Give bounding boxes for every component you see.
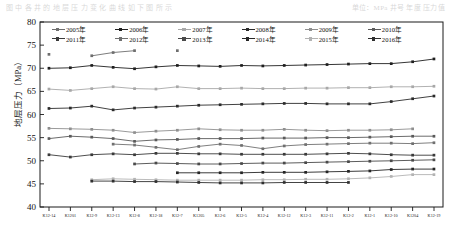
legend-item-2009年[interactable]: 2009年 <box>305 24 339 34</box>
data-point <box>411 85 414 88</box>
legend-label: 2016年 <box>382 34 402 44</box>
legend-item-2005年[interactable]: 2005年 <box>52 24 86 34</box>
data-point <box>219 153 222 156</box>
data-point <box>390 142 393 145</box>
legend-item-2012年[interactable]: 2012年 <box>115 34 149 44</box>
data-point <box>304 161 307 164</box>
data-point <box>304 143 307 146</box>
data-point <box>112 109 115 112</box>
data-point <box>283 64 286 67</box>
legend-item-2008年[interactable]: 2008年 <box>242 24 276 34</box>
data-point <box>411 154 414 157</box>
legend-item-2015年[interactable]: 2015年 <box>305 34 339 44</box>
legend-item-2011年[interactable]: 2011年 <box>52 34 86 44</box>
legend-line-swatch <box>52 38 65 39</box>
data-point <box>176 138 179 141</box>
data-point <box>347 152 350 155</box>
data-point <box>197 171 200 174</box>
data-point <box>133 49 136 52</box>
data-point <box>262 65 265 68</box>
series-line <box>113 143 434 150</box>
data-point <box>347 129 350 132</box>
data-point <box>155 152 158 155</box>
series-2009年 <box>48 127 414 134</box>
legend-item-2016年[interactable]: 2016年 <box>368 34 402 44</box>
legend-item-2013年[interactable]: 2013年 <box>178 34 212 44</box>
data-point <box>262 147 265 150</box>
series-2013年 <box>133 159 435 166</box>
legend-label: 2012年 <box>129 34 149 44</box>
data-point <box>155 139 158 142</box>
series-2006年 <box>48 58 436 71</box>
legend-label: 2005年 <box>66 24 86 34</box>
data-point <box>262 171 265 174</box>
data-point <box>283 128 286 131</box>
legend-label: 2014年 <box>256 34 276 44</box>
data-point <box>411 168 414 171</box>
data-point <box>112 180 115 183</box>
series-2005年 <box>48 49 179 57</box>
data-point <box>219 182 222 185</box>
data-point <box>155 66 158 69</box>
data-point <box>411 142 414 145</box>
data-point <box>176 148 179 151</box>
data-point <box>197 145 200 148</box>
data-point <box>283 181 286 184</box>
data-point <box>48 67 51 70</box>
data-point <box>283 153 286 156</box>
data-point <box>390 175 393 178</box>
data-point <box>155 146 158 149</box>
data-point <box>133 140 136 143</box>
data-point <box>326 136 329 139</box>
data-point <box>390 159 393 162</box>
data-point <box>369 170 372 173</box>
legend-label: 2006年 <box>129 24 149 34</box>
legend-item-2006年[interactable]: 2006年 <box>115 24 149 34</box>
data-point <box>48 153 51 156</box>
data-point <box>133 107 136 110</box>
data-point <box>133 153 136 156</box>
data-point <box>176 64 179 67</box>
data-point <box>69 107 72 110</box>
data-point <box>155 106 158 109</box>
series-2014年 <box>176 168 435 174</box>
data-point <box>176 49 179 52</box>
data-point <box>133 178 136 181</box>
data-point <box>219 171 222 174</box>
data-point <box>240 179 243 182</box>
data-point <box>283 137 286 140</box>
data-point <box>240 182 243 185</box>
data-point <box>112 137 115 140</box>
data-point <box>369 160 372 163</box>
data-point <box>219 87 222 90</box>
data-point <box>240 153 243 156</box>
data-point <box>155 180 158 183</box>
data-point <box>411 97 414 100</box>
data-point <box>262 103 265 106</box>
legend-line-swatch <box>178 38 191 39</box>
series-line <box>49 128 413 132</box>
data-point <box>369 62 372 65</box>
legend-label: 2015年 <box>319 34 339 44</box>
data-point <box>326 129 329 132</box>
data-point <box>283 178 286 181</box>
data-point <box>347 103 350 106</box>
data-point <box>69 128 72 131</box>
legend-item-2014年[interactable]: 2014年 <box>242 34 276 44</box>
legend-item-2007年[interactable]: 2007年 <box>178 24 212 34</box>
legend-item-2010年[interactable]: 2010年 <box>368 24 402 34</box>
data-point <box>433 168 436 171</box>
data-point <box>304 64 307 67</box>
legend-line-swatch <box>115 29 128 30</box>
data-point <box>112 177 115 180</box>
data-point <box>347 160 350 163</box>
data-point <box>133 131 136 134</box>
data-point <box>326 161 329 164</box>
legend-line-swatch <box>305 38 318 39</box>
data-point <box>90 105 93 108</box>
data-point <box>197 137 200 140</box>
data-point <box>433 85 436 88</box>
data-point <box>283 171 286 174</box>
data-point <box>112 153 115 156</box>
data-point <box>176 129 179 132</box>
